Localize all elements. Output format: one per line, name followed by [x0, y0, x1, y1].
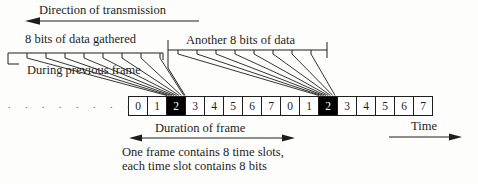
tdm-frame-diagram: Direction of transmission 8 bits of data…: [0, 0, 478, 184]
time-slot-cell: 3: [185, 96, 205, 116]
time-label: Time: [411, 120, 437, 133]
time-slot-cell: 5: [375, 96, 395, 116]
another-bits-label: Another 8 bits of data: [186, 34, 295, 47]
time-arrowhead: [449, 134, 462, 141]
figure-caption: One frame contains 8 time slots, each ti…: [122, 146, 284, 173]
bits-gathered-label: 8 bits of data gathered: [25, 33, 136, 46]
time-slot-cell: 7: [261, 96, 281, 116]
time-slot-cell: 7: [413, 96, 433, 116]
slot-row-ellipsis-dots: . . . . . . . .: [8, 99, 130, 110]
time-slot-cell: 6: [394, 96, 414, 116]
time-slot-cell: 4: [204, 96, 224, 116]
time-slot-cell: 4: [356, 96, 376, 116]
right-fan-lines: [178, 54, 335, 96]
caption-line-2: each time slot contains 8 bits: [122, 160, 284, 174]
time-slot-cell: 5: [223, 96, 243, 116]
time-slot-cell: 0: [280, 96, 300, 116]
time-slot-cell: 1: [299, 96, 319, 116]
time-slot-cell: 0: [128, 96, 148, 116]
time-slot-cell-highlighted: 2: [166, 96, 186, 116]
duration-arrowhead-left: [129, 135, 142, 142]
direction-of-transmission-label: Direction of transmission: [39, 4, 166, 17]
duration-arrowhead-right: [282, 135, 295, 142]
during-previous-frame-label: During previous frame: [27, 64, 141, 77]
time-slot-cell: 6: [242, 96, 262, 116]
time-slot-row: 0 1 2 3 4 5 6 7 0 1 2 3 4 5 6 7: [128, 96, 433, 116]
time-slot-cell: 3: [337, 96, 357, 116]
duration-of-frame-label: Duration of frame: [155, 122, 245, 135]
time-slot-cell: 1: [147, 96, 167, 116]
direction-arrowhead: [25, 17, 40, 25]
time-slot-cell-highlighted: 2: [318, 96, 338, 116]
caption-line-1: One frame contains 8 time slots,: [122, 146, 284, 160]
